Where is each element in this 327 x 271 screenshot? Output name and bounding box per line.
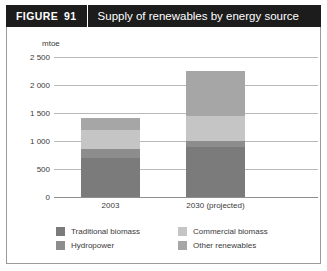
legend-row: Hydropower Other renewables [56, 238, 306, 252]
gridline [54, 57, 318, 58]
chart-body: mtoe 2 5002 0001 5001 0005000 20032030 (… [6, 27, 321, 264]
legend-label: Commercial biomass [193, 227, 268, 236]
bar-segment [186, 71, 245, 116]
legend-swatch-icon [178, 227, 187, 236]
legend-label: Other renewables [193, 241, 256, 250]
x-axis-tick-label: 2030 (projected) [166, 201, 265, 210]
y-axis-tick-labels: 2 5002 0001 5001 0005000 [6, 57, 50, 197]
figure-title: Supply of renewables by energy source [98, 10, 299, 22]
legend-item-other-renewables: Other renewables [178, 241, 256, 250]
legend-swatch-icon [178, 241, 187, 250]
x-axis-tick-label: 2003 [61, 201, 160, 210]
bar-segment [186, 116, 245, 141]
figure-number: 91 [58, 10, 76, 22]
legend-item-traditional-biomass: Traditional biomass [56, 227, 178, 236]
figure-header: FIGURE 91 Supply of renewables by energy… [6, 5, 321, 27]
legend-row: Traditional biomass Commercial biomass [56, 224, 306, 238]
legend-label: Traditional biomass [71, 227, 140, 236]
figure-container: FIGURE 91 Supply of renewables by energy… [0, 0, 327, 271]
bar-segment [81, 149, 140, 157]
y-axis-tick-label: 2 500 [6, 53, 50, 62]
y-axis-tick-label: 500 [6, 165, 50, 174]
bar-segment [81, 118, 140, 130]
chart-legend: Traditional biomass Commercial biomass H… [56, 224, 306, 252]
legend-swatch-icon [56, 241, 65, 250]
x-axis-line [54, 197, 318, 198]
bar-segment [186, 147, 245, 197]
legend-label: Hydropower [71, 241, 114, 250]
y-axis-tick-label: 1 000 [6, 137, 50, 146]
legend-item-commercial-biomass: Commercial biomass [178, 227, 268, 236]
y-axis-tick-label: 2 000 [6, 81, 50, 90]
figure-label: FIGURE [6, 10, 58, 22]
legend-swatch-icon [56, 227, 65, 236]
plot-area [54, 57, 318, 197]
y-axis-tick-label: 0 [6, 193, 50, 202]
bar-segment [81, 158, 140, 197]
bar-segment [81, 130, 140, 150]
bar-2030-projected- [186, 71, 245, 197]
bar-2003 [81, 118, 140, 197]
header-divider [87, 5, 88, 27]
y-axis-unit-label: mtoe [42, 39, 60, 48]
y-axis-tick-label: 1 500 [6, 109, 50, 118]
legend-item-hydropower: Hydropower [56, 241, 178, 250]
